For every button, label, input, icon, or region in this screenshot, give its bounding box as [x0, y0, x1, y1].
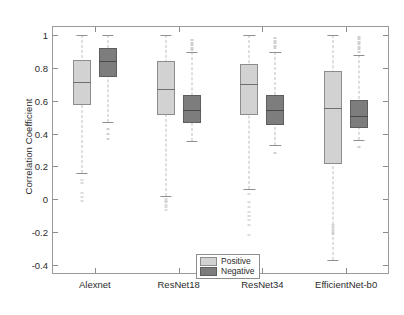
y-axis-tick [53, 265, 58, 266]
legend-swatch-neg [200, 267, 217, 276]
plot-inner: 10.80.60.40.20-0.2-0.4AlexnetResNet18Res… [53, 27, 388, 273]
box-plot-outlier [274, 38, 277, 39]
box-whisker-cap [102, 122, 113, 123]
box-plot-outlier [274, 48, 277, 49]
y-axis-tick [383, 166, 388, 167]
y-axis-tick [383, 232, 388, 233]
y-axis-tick-label: 0.2 [35, 161, 48, 172]
box-whisker-cap [244, 35, 255, 36]
box-plot-outlier [248, 219, 251, 220]
box-plot-outlier [358, 51, 361, 52]
legend-swatch-pos [200, 257, 217, 266]
y-axis-tick [53, 199, 58, 200]
box-whisker [165, 35, 166, 196]
chart-legend: PositiveNegative [196, 254, 260, 279]
box-plot-outlier [248, 207, 251, 208]
y-axis-tick-label: 0 [43, 194, 48, 205]
box-whisker-cap [186, 141, 197, 142]
x-axis-tick [346, 268, 347, 273]
y-axis-tick-label: -0.2 [32, 227, 48, 238]
box-plot-outlier [190, 49, 193, 50]
y-axis-tick-label: 0.8 [35, 63, 48, 74]
box-whisker-cap [244, 189, 255, 190]
x-axis-tick [179, 27, 180, 32]
box-plot-outlier [106, 138, 109, 139]
box-whisker-cap [328, 260, 339, 261]
x-axis-tick [262, 27, 263, 32]
box-plot-median [183, 110, 201, 111]
box-plot-outlier [248, 215, 251, 216]
box-plot-outlier [80, 200, 83, 201]
box-plot-outlier [358, 49, 361, 50]
box-whisker-cap [76, 35, 87, 36]
box-plot-outlier [190, 45, 193, 46]
legend-item: Negative [200, 267, 255, 276]
legend-label: Negative [221, 267, 255, 276]
y-axis-tick [383, 199, 388, 200]
box-plot-outlier [358, 36, 361, 37]
x-axis-tick-label: ResNet34 [241, 279, 283, 290]
y-axis-tick-label: 1 [43, 30, 48, 41]
y-axis-tick [53, 101, 58, 102]
box-plot-median [240, 84, 258, 85]
box-whisker-cap [328, 35, 339, 36]
box-plot-outlier [164, 209, 167, 210]
y-axis-tick [53, 166, 58, 167]
box-plot-outlier [358, 146, 361, 147]
box-plot-median [266, 110, 284, 111]
box-plot-outlier [358, 39, 361, 40]
box-plot-outlier [248, 202, 251, 203]
box-plot-outlier [190, 40, 193, 41]
box-plot-outlier [332, 224, 335, 225]
x-axis-tick-label: EfficientNet-b0 [315, 279, 377, 290]
box-plot-outlier [164, 202, 167, 203]
box-plot-median [157, 89, 175, 90]
y-axis-tick [53, 232, 58, 233]
x-axis-tick [179, 268, 180, 273]
y-axis-tick [383, 35, 388, 36]
box-plot-outlier [80, 179, 83, 180]
box-plot-outlier [274, 153, 277, 154]
box-plot-outlier [106, 133, 109, 134]
box-plot-outlier [358, 41, 361, 42]
x-axis-tick [346, 27, 347, 32]
box-plot-outlier [164, 207, 167, 208]
y-axis-tick-label: 0.6 [35, 95, 48, 106]
y-axis-tick [53, 35, 58, 36]
box-plot-outlier [80, 196, 83, 197]
box-plot-outlier [332, 227, 335, 228]
box-whisker-cap [160, 35, 171, 36]
x-axis-tick [95, 268, 96, 273]
box-plot-median [99, 61, 117, 62]
box-plot-outlier [80, 182, 83, 183]
y-axis-tick [383, 101, 388, 102]
x-axis-tick [95, 27, 96, 32]
box-plot-outlier [164, 204, 167, 205]
plot-area: 10.80.60.40.20-0.2-0.4AlexnetResNet18Res… [52, 26, 389, 274]
box-plot-outlier [248, 211, 251, 212]
x-axis-tick [262, 268, 263, 273]
box-whisker-cap [270, 52, 281, 53]
box-plot-outlier [332, 234, 335, 235]
y-axis-label: Correlation Coefficient [23, 57, 34, 237]
box-plot-outlier [274, 45, 277, 46]
box-plot-median [324, 108, 342, 109]
box-plot-outlier [358, 46, 361, 47]
y-axis-tick [383, 265, 388, 266]
box-plot-box [324, 71, 342, 164]
box-whisker-cap [270, 145, 281, 146]
box-plot-outlier [274, 43, 277, 44]
box-whisker-cap [160, 196, 171, 197]
x-axis-tick-label: Alexnet [79, 279, 111, 290]
box-whisker-cap [102, 35, 113, 36]
x-axis-tick-label: ResNet18 [158, 279, 200, 290]
box-plot-box [350, 100, 368, 128]
box-plot-outlier [274, 40, 277, 41]
box-whisker-cap [354, 55, 365, 56]
box-plot-outlier [248, 235, 251, 236]
box-plot-outlier [190, 42, 193, 43]
legend-item: Positive [200, 257, 255, 266]
box-plot-median [350, 116, 368, 117]
y-axis-tick [53, 134, 58, 135]
boxplot-figure: Correlation Coefficient 10.80.60.40.20-0… [0, 0, 404, 315]
